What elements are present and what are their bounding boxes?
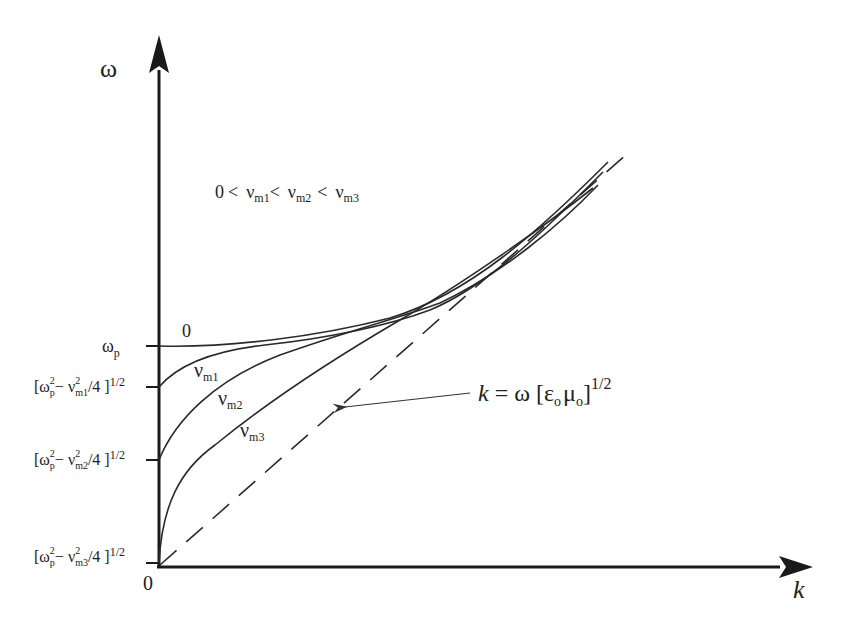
svg-text:[ω2p− ν2m3/4 ]1/2: [ω2p− ν2m3/4 ]1/2 bbox=[34, 545, 125, 568]
annotation-arrow-icon bbox=[345, 393, 470, 407]
curve-label-nu-m3: νm3 bbox=[240, 419, 264, 444]
svg-text:[ω2p− ν2m2/4 ]1/2: [ω2p− ν2m2/4 ]1/2 bbox=[34, 448, 125, 471]
svg-text:k= ω [εoμo]1/2: k= ω [εoμo]1/2 bbox=[478, 375, 611, 409]
curve-nu-0 bbox=[159, 162, 608, 346]
x-axis-label: k bbox=[793, 575, 805, 604]
y-axis-label: ω bbox=[100, 54, 117, 83]
curve-nu-m1 bbox=[159, 172, 603, 387]
tick-label-wp: ωp bbox=[102, 336, 120, 360]
svg-text:0<νm1<νm2<νm3: 0<νm1<νm2<νm3 bbox=[215, 182, 359, 205]
origin-label: 0 bbox=[143, 572, 153, 594]
tick-label-nu-m2: [ω2p− ν2m2/4 ]1/2 bbox=[34, 448, 125, 471]
y-ticks bbox=[146, 346, 159, 563]
svg-text:νm2: νm2 bbox=[218, 387, 242, 412]
curve-label-nu-m1: νm1 bbox=[194, 359, 218, 384]
y-axis: ω bbox=[100, 35, 169, 567]
light-line-equation: k= ω [εoμo]1/2 bbox=[478, 375, 611, 409]
y-axis-arrowhead-icon bbox=[149, 35, 169, 73]
svg-text:νm3: νm3 bbox=[240, 419, 264, 444]
curve-nu-m2 bbox=[159, 185, 598, 460]
svg-text:[ω2p− ν2m1/4 ]1/2: [ω2p− ν2m1/4 ]1/2 bbox=[34, 375, 125, 398]
curve-label-0: 0 bbox=[182, 321, 191, 341]
curve-label-nu-m2: νm2 bbox=[218, 387, 242, 412]
svg-text:ωp: ωp bbox=[102, 336, 120, 360]
dispersion-diagram: ω k 0 ωp [ω2p− ν2m1/4 ]1/2 [ω2p− ν2m2/4 … bbox=[0, 0, 853, 626]
x-axis: k 0 bbox=[143, 556, 813, 604]
tick-label-nu-m1: [ω2p− ν2m1/4 ]1/2 bbox=[34, 375, 125, 398]
collision-frequency-condition: 0<νm1<νm2<νm3 bbox=[215, 182, 359, 205]
tick-label-nu-m3: [ω2p− ν2m3/4 ]1/2 bbox=[34, 545, 125, 568]
svg-text:νm1: νm1 bbox=[194, 359, 218, 384]
